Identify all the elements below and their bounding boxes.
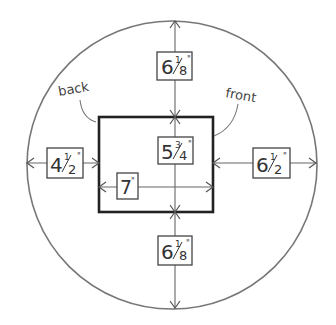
svg-text:4: 4 bbox=[179, 148, 187, 163]
top-measurement: 6 1 8 " bbox=[157, 52, 192, 80]
svg-text:": " bbox=[77, 152, 81, 161]
svg-text:6: 6 bbox=[161, 240, 174, 264]
circle-placement-diagram: 6 1 8 " 5 3 4 " 4 1 2 " 6 1 2 " 7 " 6 1 bbox=[0, 0, 336, 325]
svg-text:6: 6 bbox=[161, 55, 174, 79]
svg-text:": " bbox=[283, 152, 287, 161]
svg-text:8: 8 bbox=[179, 63, 187, 78]
svg-text:2: 2 bbox=[274, 162, 282, 177]
svg-text:6: 6 bbox=[256, 153, 269, 177]
back-leader-line bbox=[80, 100, 96, 122]
width-measurement: 7 " bbox=[117, 173, 138, 199]
svg-text:": " bbox=[131, 177, 135, 186]
svg-text:2: 2 bbox=[68, 162, 76, 177]
svg-text:": " bbox=[187, 55, 191, 64]
bottom-measurement: 6 1 8 " bbox=[158, 236, 192, 265]
left-measurement: 4 1 2 " bbox=[47, 148, 83, 178]
svg-text:1: 1 bbox=[64, 152, 70, 162]
svg-text:1: 1 bbox=[270, 152, 276, 162]
back-label: back bbox=[57, 79, 90, 99]
svg-text:8: 8 bbox=[179, 248, 187, 263]
svg-text:": " bbox=[186, 239, 190, 248]
svg-text:4: 4 bbox=[50, 153, 63, 177]
front-leader-line bbox=[214, 104, 238, 136]
inner-rectangle bbox=[99, 117, 213, 212]
svg-text:5: 5 bbox=[161, 140, 174, 164]
right-measurement: 6 1 2 " bbox=[253, 148, 290, 178]
height-measurement: 5 3 4 " bbox=[158, 137, 193, 164]
front-label: front bbox=[224, 85, 257, 105]
svg-text:": " bbox=[188, 140, 192, 149]
